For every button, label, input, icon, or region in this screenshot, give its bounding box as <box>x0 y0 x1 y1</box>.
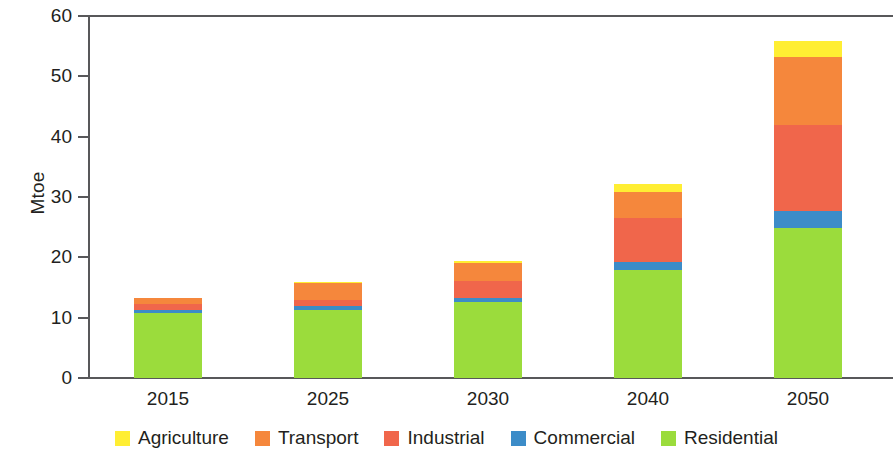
bar-segment-transport <box>294 283 362 299</box>
x-axis-tick-label: 2025 <box>268 388 388 410</box>
bar-2025 <box>294 282 362 379</box>
x-axis-tick-label: 2040 <box>588 388 708 410</box>
legend-swatch-icon <box>115 431 130 446</box>
legend-label: Transport <box>278 427 359 449</box>
bar-segment-transport <box>774 57 842 125</box>
bar-segment-industrial <box>774 125 842 211</box>
bar-segment-residential <box>134 313 202 378</box>
legend-swatch-icon <box>255 431 270 446</box>
legend-item-commercial[interactable]: Commercial <box>511 427 635 449</box>
legend-item-industrial[interactable]: Industrial <box>384 427 484 449</box>
bar-2050 <box>774 41 842 378</box>
bar-segment-transport <box>454 263 522 281</box>
legend-label: Industrial <box>407 427 484 449</box>
bar-segment-industrial <box>614 218 682 262</box>
bar-2015 <box>134 298 202 378</box>
legend-item-residential[interactable]: Residential <box>661 427 778 449</box>
bar-segment-agriculture <box>774 41 842 57</box>
bar-segment-commercial <box>614 262 682 270</box>
stacked-bar-chart: Mtoe 0102030405060 20152025203020402050 … <box>0 0 893 459</box>
chart-legend: AgricultureTransportIndustrialCommercial… <box>0 427 893 449</box>
legend-swatch-icon <box>511 431 526 446</box>
legend-label: Agriculture <box>138 427 229 449</box>
bar-segment-commercial <box>774 211 842 228</box>
legend-swatch-icon <box>384 431 399 446</box>
legend-item-agriculture[interactable]: Agriculture <box>115 427 229 449</box>
bar-segment-residential <box>454 302 522 378</box>
legend-label: Residential <box>684 427 778 449</box>
x-axis-tick-label: 2015 <box>108 388 228 410</box>
bar-segment-industrial <box>454 281 522 298</box>
bar-segment-residential <box>294 310 362 378</box>
bar-segment-residential <box>774 228 842 378</box>
bar-segment-transport <box>614 192 682 219</box>
legend-swatch-icon <box>661 431 676 446</box>
x-axis-tick-label: 2030 <box>428 388 548 410</box>
x-axis-tick-label: 2050 <box>748 388 868 410</box>
bar-2030 <box>454 261 522 378</box>
legend-label: Commercial <box>534 427 635 449</box>
bar-segment-residential <box>614 270 682 378</box>
legend-item-transport[interactable]: Transport <box>255 427 359 449</box>
bar-segment-agriculture <box>614 184 682 192</box>
bar-2040 <box>614 184 682 378</box>
